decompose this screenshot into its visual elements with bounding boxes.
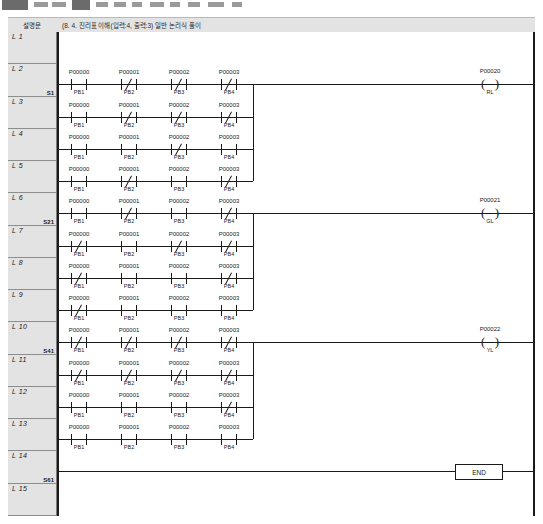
contact-normally-closed[interactable]: P00001PB2 <box>121 370 137 381</box>
contact-address-label: P00000 <box>69 102 90 108</box>
gutter-row[interactable]: L 14S61 <box>8 451 56 483</box>
contact-normally-closed[interactable]: P00001PB2 <box>121 208 137 219</box>
gutter-row[interactable]: L 2S1 <box>8 64 56 96</box>
contact-tag-label: PB4 <box>224 251 234 257</box>
ladder-canvas[interactable]: P00000PB1P00001PB2P00002PB3P00003PB4P000… <box>57 32 535 516</box>
contact-right-bar <box>136 370 137 381</box>
output-coil[interactable]: ()P00021GL <box>481 208 499 220</box>
toolbar-icon-group-2[interactable] <box>34 2 48 7</box>
contact-left-bar <box>171 434 172 445</box>
contact-normally-open[interactable]: P00002PB3 <box>171 176 187 187</box>
gutter-row[interactable]: L 13 <box>8 419 56 451</box>
contact-address-label: P00003 <box>219 102 240 108</box>
contact-right-bar <box>186 241 187 252</box>
comment-column-header: 설명문 <box>8 18 56 32</box>
contact-normally-closed[interactable]: P00001PB2 <box>121 337 137 348</box>
toolbar-icon-group-9[interactable] <box>170 2 180 7</box>
contact-tag-label: PB3 <box>174 444 184 450</box>
contact-normally-closed[interactable]: P00003PB4 <box>221 208 237 219</box>
contact-address-label: P00001 <box>119 327 140 333</box>
contact-normally-closed[interactable]: P00003PB4 <box>221 337 237 348</box>
contact-normally-open[interactable]: P00002PB3 <box>171 305 187 316</box>
contact-normally-open[interactable]: P00000PB1 <box>71 112 87 123</box>
contact-normally-open[interactable]: P00001PB2 <box>121 402 137 413</box>
contact-right-bar <box>236 305 237 316</box>
contact-normally-open[interactable]: P00002PB3 <box>171 434 187 445</box>
contact-right-bar <box>136 337 137 348</box>
contact-normally-closed[interactable]: P00000PB1 <box>71 305 87 316</box>
contact-normally-closed[interactable]: P00000PB1 <box>71 273 87 284</box>
output-coil[interactable]: ()P00022YL <box>481 337 499 349</box>
gutter-row[interactable]: L 5 <box>8 161 56 193</box>
contact-normally-open[interactable]: P00000PB1 <box>71 79 87 90</box>
contact-normally-open[interactable]: P00002PB3 <box>171 208 187 219</box>
contact-normally-open[interactable]: P00001PB2 <box>121 305 137 316</box>
gutter-row[interactable]: L 8 <box>8 258 56 290</box>
contact-normally-closed[interactable]: P00002PB3 <box>171 79 187 90</box>
contact-left-bar <box>121 79 122 90</box>
toolbar-icon-group-12[interactable] <box>232 2 242 7</box>
contact-normally-closed[interactable]: P00002PB3 <box>171 370 187 381</box>
contact-normally-closed[interactable]: P00000PB1 <box>71 337 87 348</box>
contact-normally-closed[interactable]: P00003PB4 <box>221 370 237 381</box>
toolbar-icon-group-6[interactable] <box>114 2 126 7</box>
toolbar-icon-group-3[interactable] <box>52 2 66 7</box>
contact-normally-open[interactable]: P00000PB1 <box>71 144 87 155</box>
gutter-row[interactable]: L 12 <box>8 387 56 419</box>
gutter-row[interactable]: L 4 <box>8 129 56 161</box>
editor-header-band: 설명문 (8. 4. 진리표 이해(입력:4, 출력:3) 일반 논리식 풀이 <box>8 18 535 33</box>
line-number-label: L 9 <box>12 291 23 298</box>
toolbar-icon-group-4[interactable] <box>72 0 90 10</box>
contact-normally-open[interactable]: P00000PB1 <box>71 176 87 187</box>
contact-normally-closed[interactable]: P00003PB4 <box>221 273 237 284</box>
output-coil[interactable]: ()P00020RL <box>481 79 499 91</box>
contact-normally-open[interactable]: P00003PB4 <box>221 434 237 445</box>
contact-normally-open[interactable]: P00002PB3 <box>171 273 187 284</box>
contact-normally-open[interactable]: P00002PB3 <box>171 402 187 413</box>
toolbar-strip[interactable] <box>0 0 543 14</box>
contact-normally-open[interactable]: P00003PB4 <box>221 305 237 316</box>
program-description: (8. 4. 진리표 이해(입력:4, 출력:3) 일반 논리식 풀이 <box>60 18 532 32</box>
contact-normally-closed[interactable]: P00002PB3 <box>171 112 187 123</box>
toolbar-icon-group-5[interactable] <box>96 2 108 7</box>
contact-normally-closed[interactable]: P00000PB1 <box>71 241 87 252</box>
toolbar-icon-group-1[interactable] <box>2 0 28 10</box>
end-instruction-block[interactable]: END <box>455 464 503 480</box>
gutter-row[interactable]: L 11 <box>8 355 56 387</box>
contact-normally-open[interactable]: P00000PB1 <box>71 434 87 445</box>
contact-normally-closed[interactable]: P00002PB3 <box>171 144 187 155</box>
contact-normally-closed[interactable]: P00003PB4 <box>221 176 237 187</box>
gutter-row[interactable]: L 3 <box>8 97 56 129</box>
gutter-row[interactable]: L 9 <box>8 290 56 322</box>
contact-normally-closed[interactable]: P00000PB1 <box>71 370 87 381</box>
contact-normally-closed[interactable]: P00002PB3 <box>171 241 187 252</box>
toolbar-icon-group-10[interactable] <box>188 2 200 7</box>
contact-normally-closed[interactable]: P00003PB4 <box>221 112 237 123</box>
gutter-row[interactable]: L 15 <box>8 484 56 516</box>
contact-normally-open[interactable]: P00001PB2 <box>121 144 137 155</box>
toolbar-icon-group-11[interactable] <box>208 2 224 7</box>
contact-normally-open[interactable]: P00001PB2 <box>121 241 137 252</box>
gutter-row[interactable]: L 1 <box>8 32 56 64</box>
contact-left-bar <box>221 305 222 316</box>
contact-normally-open[interactable]: P00000PB1 <box>71 208 87 219</box>
contact-tag-label: PB4 <box>224 412 234 418</box>
contact-normally-open[interactable]: P00001PB2 <box>121 273 137 284</box>
contact-normally-closed[interactable]: P00001PB2 <box>121 176 137 187</box>
contact-normally-closed[interactable]: P00003PB4 <box>221 79 237 90</box>
gutter-row[interactable]: L 7 <box>8 226 56 258</box>
contact-normally-closed[interactable]: P00001PB2 <box>121 79 137 90</box>
gutter-row[interactable]: L 10S41 <box>8 322 56 354</box>
contact-normally-open[interactable]: P00001PB2 <box>121 434 137 445</box>
toolbar-icon-group-7[interactable] <box>132 2 142 7</box>
contact-normally-closed[interactable]: P00003PB4 <box>221 402 237 413</box>
contact-address-label: P00000 <box>69 263 90 269</box>
toolbar-icon-group-8[interactable] <box>150 2 164 7</box>
contact-normally-closed[interactable]: P00003PB4 <box>221 241 237 252</box>
contact-normally-closed[interactable]: P00001PB2 <box>121 112 137 123</box>
contact-normally-closed[interactable]: P00002PB3 <box>171 337 187 348</box>
contact-normally-open[interactable]: P00000PB1 <box>71 402 87 413</box>
gutter-row[interactable]: L 6S21 <box>8 193 56 225</box>
contact-tag-label: PB2 <box>124 412 134 418</box>
contact-normally-open[interactable]: P00003PB4 <box>221 144 237 155</box>
